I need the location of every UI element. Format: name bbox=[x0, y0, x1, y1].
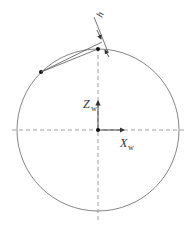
origin-point bbox=[96, 128, 100, 132]
coordinate-diagram: h Z w X w bbox=[0, 0, 196, 225]
z-axis-label: Z bbox=[83, 97, 90, 111]
height-measure-line bbox=[94, 17, 108, 52]
height-label: h bbox=[94, 10, 106, 19]
line-a-to-h bbox=[41, 42, 102, 72]
line-a-to-b bbox=[41, 49, 98, 72]
z-axis-subscript: w bbox=[91, 104, 97, 113]
x-axis-subscript: w bbox=[128, 143, 134, 152]
height-arrow-bottom bbox=[105, 50, 109, 57]
point-b bbox=[96, 47, 100, 51]
height-arrow-top bbox=[97, 30, 101, 39]
x-axis-label: X bbox=[119, 136, 128, 150]
